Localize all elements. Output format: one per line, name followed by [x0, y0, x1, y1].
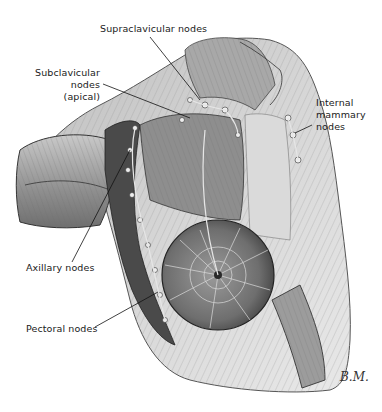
label-supraclavicular-nodes: Supraclavicular nodes [100, 23, 207, 35]
label-pectoral-nodes: Pectoral nodes [26, 323, 97, 335]
anatomy-illustration [0, 0, 382, 412]
sternum [245, 114, 291, 240]
label-line: (apical) [32, 91, 100, 103]
label-subclavicular-nodes: Subclavicular nodes (apical) [32, 67, 100, 103]
label-line: nodes [32, 79, 100, 91]
label-axillary-nodes: Axillary nodes [26, 262, 94, 274]
label-line: Internal [316, 97, 366, 109]
label-line: nodes [316, 121, 366, 133]
label-internal-mammary-nodes: Internal mammary nodes [316, 97, 366, 133]
artist-signature: B.M. [340, 370, 369, 384]
label-line: mammary [316, 109, 366, 121]
label-line: Subclavicular [32, 67, 100, 79]
